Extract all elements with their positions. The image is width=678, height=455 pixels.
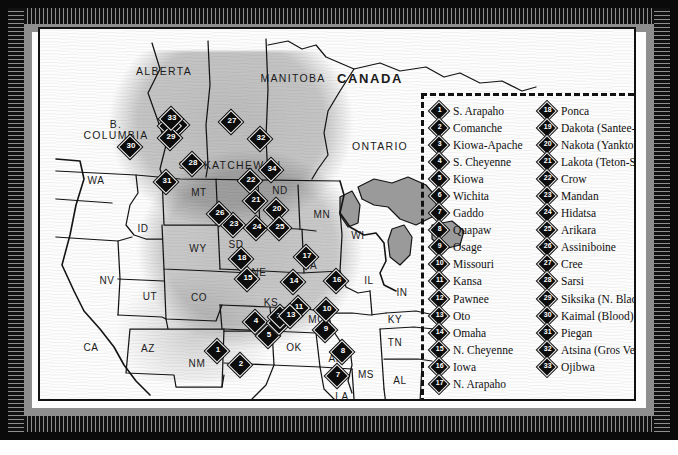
legend-tribe-name: S. Cheyenne (453, 156, 511, 168)
legend-item-kansa[interactable]: 11Kansa (432, 273, 544, 290)
legend-diamond-number: 18 (542, 105, 554, 115)
legend-diamond-icon: 17 (429, 374, 449, 394)
state-label-ky: KY (388, 314, 403, 325)
legend-item-comanche[interactable]: 2Comanche (432, 119, 544, 136)
tribe-marker-number: 7 (331, 369, 346, 381)
legend-item-osage[interactable]: 9Osage (432, 239, 544, 256)
tribe-marker-number: 10 (320, 303, 335, 315)
legend-item-quapaw[interactable]: 8Quapaw (432, 222, 544, 239)
legend-diamond-number: 26 (542, 242, 554, 252)
legend-diamond-number: 12 (434, 293, 446, 303)
legend-item-s-arapaho[interactable]: 1S. Arapaho (432, 102, 544, 119)
tribe-marker-number: 30 (124, 140, 139, 152)
legend-column-right: 18Ponca19Dakota (Santee-Sioux)20Nakota (… (540, 102, 636, 376)
legend-tribe-name: Piegan (561, 327, 592, 339)
tribe-marker-number: 8 (336, 345, 351, 357)
legend-tribe-name: Nakota (Yankton-Sioux) (561, 139, 636, 151)
legend-diamond-number: 19 (542, 122, 554, 132)
legend-diamond-number: 24 (542, 207, 554, 217)
legend-diamond-number: 23 (542, 190, 554, 200)
legend-diamond-number: 22 (542, 173, 554, 183)
sawtooth-border-top (8, 8, 670, 24)
legend-item-gaddo[interactable]: 7Gaddo (432, 205, 544, 222)
tribe-marker-number: 20 (270, 203, 285, 215)
legend-item-iowa[interactable]: 16Iowa (432, 358, 544, 375)
legend-item-s-cheyenne[interactable]: 4S. Cheyenne (432, 153, 544, 170)
legend-tribe-name: Ponca (561, 105, 589, 117)
legend-diamond-number: 21 (542, 156, 554, 166)
tribe-marker-number: 32 (254, 132, 269, 144)
legend-item-n-arapaho[interactable]: 17N. Arapaho (432, 376, 544, 393)
legend-diamond-number: 14 (434, 327, 446, 337)
map-plate: CANADAALBERTAB.COLUMBIASASKATCHEWANMANIT… (38, 27, 636, 401)
state-label-tn: TN (388, 337, 403, 348)
state-label-nm: NM (189, 358, 206, 369)
tribe-marker-number: 1 (211, 344, 226, 356)
legend-item-ponca[interactable]: 18Ponca (540, 102, 636, 119)
legend-item-missouri[interactable]: 10Missouri (432, 256, 544, 273)
legend-diamond-number: 6 (434, 190, 446, 200)
legend-item-lakota-teton-sioux[interactable]: 21Lakota (Teton-Sioux) (540, 153, 636, 170)
legend-item-n-cheyenne[interactable]: 15N. Cheyenne (432, 341, 544, 358)
legend-tribe-name: Comanche (453, 122, 502, 134)
tribe-marker-number: 4 (249, 315, 264, 327)
legend-diamond-number: 13 (434, 310, 446, 320)
legend-item-assiniboine[interactable]: 26Assiniboine (540, 239, 636, 256)
legend-item-kaimal-blood[interactable]: 30Kaimal (Blood) (540, 307, 636, 324)
legend-item-sarsi[interactable]: 28Sarsi (540, 273, 636, 290)
legend-item-hidatsa[interactable]: 24Hidatsa (540, 205, 636, 222)
province-label-manitoba: MANITOBA (260, 72, 325, 84)
legend-item-omaha[interactable]: 14Omaha (432, 324, 544, 341)
legend-item-wichita[interactable]: 6Wichita (432, 187, 544, 204)
legend-item-kiowa[interactable]: 5Kiowa (432, 170, 544, 187)
legend-diamond-number: 30 (542, 310, 554, 320)
state-label-ut: UT (143, 291, 158, 302)
country-label-canada: CANADA (337, 71, 403, 86)
legend-diamond-icon: 33 (537, 357, 557, 377)
legend-item-piegan[interactable]: 31Piegan (540, 324, 636, 341)
legend-tribe-name: Gaddo (453, 207, 484, 219)
sawtooth-border-left (8, 8, 24, 432)
legend-diamond-number: 10 (434, 259, 446, 269)
legend-item-ojibwa[interactable]: 33Ojibwa (540, 358, 636, 375)
tribe-marker-number: 18 (235, 252, 250, 264)
tribe-marker-number: 26 (213, 207, 228, 219)
legend-item-siksika-n-blackfoot[interactable]: 29Siksika (N. Blackfoot) (540, 290, 636, 307)
legend-item-dakota-santee-sioux[interactable]: 19Dakota (Santee-Sioux) (540, 119, 636, 136)
legend-item-oto[interactable]: 13Oto (432, 307, 544, 324)
legend-item-kiowa-apache[interactable]: 3Kiowa-Apache (432, 136, 544, 153)
legend-tribe-name: Ojibwa (561, 361, 595, 373)
tribe-marker-number: 13 (284, 309, 299, 321)
legend-diamond-number: 32 (542, 344, 554, 354)
legend-tribe-name: Assiniboine (561, 241, 616, 253)
tribe-marker-number: 27 (225, 115, 240, 127)
state-label-in: IN (396, 287, 407, 298)
legend-item-cree[interactable]: 27Cree (540, 256, 636, 273)
legend-tribe-name: Pawnee (453, 293, 489, 305)
legend-diamond-number: 1 (434, 105, 446, 115)
legend-diamond-number: 27 (542, 259, 554, 269)
legend-diamond-number: 7 (434, 207, 446, 217)
state-label-al: AL (393, 375, 406, 386)
tribe-marker-number: 9 (319, 323, 334, 335)
state-label-nv: NV (99, 275, 114, 286)
legend-tribe-name: S. Arapaho (453, 105, 504, 117)
tribe-marker-number: 29 (164, 131, 179, 143)
legend-item-atsina-gros-ventre[interactable]: 32Atsina (Gros Ventre) (540, 341, 636, 358)
legend-item-arikara[interactable]: 25Arikara (540, 222, 636, 239)
legend-tribe-name: Omaha (453, 327, 486, 339)
tribe-marker-number: 33 (165, 112, 180, 124)
state-label-la: LA (335, 391, 348, 402)
legend-item-nakota-yankton-sioux[interactable]: 20Nakota (Yankton-Sioux) (540, 136, 636, 153)
legend-tribe-name: Lakota (Teton-Sioux) (561, 156, 636, 168)
legend-column-left: 1S. Arapaho2Comanche3Kiowa-Apache4S. Che… (432, 102, 544, 393)
legend-diamond-number: 28 (542, 276, 554, 286)
legend-item-pawnee[interactable]: 12Pawnee (432, 290, 544, 307)
tribe-marker-number: 2 (234, 358, 249, 370)
legend-tribe-name: Atsina (Gros Ventre) (561, 344, 636, 356)
legend-diamond-number: 2 (434, 122, 446, 132)
legend-tribe-name: Osage (453, 241, 482, 253)
province-label-alberta: ALBERTA (136, 65, 192, 77)
legend-item-crow[interactable]: 22Crow (540, 170, 636, 187)
legend-item-mandan[interactable]: 23Mandan (540, 187, 636, 204)
